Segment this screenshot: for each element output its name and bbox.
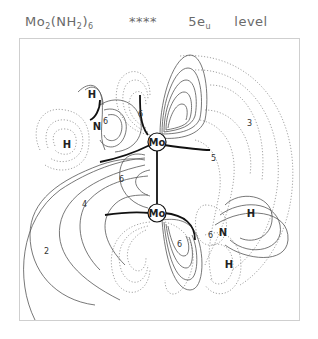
atom-h-left-top: H [88, 89, 96, 100]
atom-mo-top: Mo [148, 133, 166, 151]
atom-h-right-top: H [247, 208, 255, 219]
contour-label-3: 3 [247, 119, 252, 128]
contour-plot: Mo Mo N N H H H H 2 3 4 5 6 6 6 6 6 [0, 0, 318, 339]
mo-top-label: Mo [149, 137, 166, 148]
contour-label-6-lower: 6 [177, 240, 182, 249]
contour-label-4: 4 [82, 200, 87, 209]
contour-label-6-n-right: 6 [208, 231, 213, 240]
negative-contours [36, 56, 293, 294]
contour-label-6-center: 6 [119, 175, 124, 184]
atom-h-right-bottom: H [225, 259, 233, 270]
atom-n-right: N [219, 227, 227, 238]
contour-label-6-upper: 6 [138, 110, 143, 119]
mo-bottom-label: Mo [149, 208, 166, 219]
contour-label-2: 2 [44, 247, 49, 256]
contour-label-6-n-left: 6 [103, 117, 108, 126]
atom-n-left: N [93, 121, 101, 132]
contour-label-5: 5 [211, 154, 216, 163]
atom-mo-bottom: Mo [148, 204, 166, 222]
atom-h-left-bottom: H [63, 139, 71, 150]
positive-contours [24, 55, 288, 320]
